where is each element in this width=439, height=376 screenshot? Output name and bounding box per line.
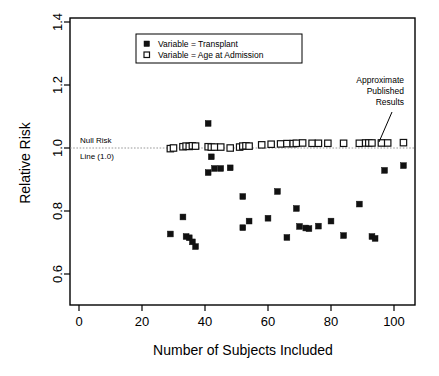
x-axis-ticks: [79, 305, 394, 311]
data-point: [170, 145, 176, 151]
data-point: [211, 144, 217, 150]
data-point: [193, 244, 199, 250]
data-point: [218, 144, 224, 150]
null-risk-label-line-2: Line (1.0): [80, 152, 114, 161]
data-point: [275, 189, 281, 195]
annotation-line-3: Results: [376, 97, 404, 107]
data-point: [315, 140, 321, 146]
data-point: [369, 140, 375, 146]
y-tick-label-1-0: 1.0: [50, 139, 65, 157]
y-tick-label-0-6: 0.6: [50, 265, 65, 283]
data-point: [259, 142, 265, 148]
data-point: [284, 140, 290, 146]
data-point: [167, 231, 173, 237]
x-tick-label-0: 0: [75, 314, 82, 329]
x-tick-label-100: 100: [383, 314, 405, 329]
data-point: [306, 226, 312, 232]
annotation-line-2: Published: [367, 86, 405, 96]
null-risk-label-line-1: Null Risk: [80, 136, 113, 145]
data-point: [227, 145, 233, 151]
data-point: [382, 167, 388, 173]
data-point: [246, 218, 252, 224]
legend-marker-transplant: [144, 41, 150, 47]
data-point: [284, 235, 290, 241]
legend-label-age-at-admission: Variable = Age at Admission: [158, 50, 264, 60]
data-point: [205, 170, 211, 176]
series-age-at-admission: [167, 139, 407, 151]
data-points-layer: [167, 121, 407, 250]
data-point: [192, 143, 198, 149]
data-point: [212, 166, 218, 172]
annotation-leader-line: [379, 112, 392, 142]
data-point: [356, 201, 362, 207]
data-point: [180, 214, 186, 220]
data-point: [316, 223, 322, 229]
data-point: [293, 140, 299, 146]
data-point: [400, 139, 406, 145]
data-point: [205, 121, 211, 127]
x-axis-tick-labels: 0 20 40 60 80 100: [75, 314, 404, 329]
y-tick-label-1-2: 1.2: [50, 76, 65, 94]
data-point: [265, 215, 271, 221]
data-point: [328, 218, 334, 224]
data-point: [240, 194, 246, 200]
legend-marker-age-at-admission: [144, 52, 150, 58]
data-point: [227, 165, 233, 171]
data-point: [293, 206, 299, 212]
y-tick-label-1-4: 1.4: [50, 13, 65, 31]
plot-canvas: 1.4 1.2 1.0 0.8 0.6 Relative Risk 0 20 4…: [0, 0, 439, 376]
approximate-published-results-annotation: Approximate Published Results: [356, 75, 404, 142]
data-point: [385, 140, 391, 146]
data-point: [356, 140, 362, 146]
legend-label-transplant: Variable = Transplant: [158, 39, 239, 49]
x-tick-label-20: 20: [135, 314, 149, 329]
data-point: [208, 154, 214, 160]
data-point: [268, 141, 274, 147]
annotation-line-1: Approximate: [356, 75, 404, 85]
y-axis-title: Relative Risk: [17, 121, 33, 204]
data-point: [240, 225, 246, 231]
data-point: [297, 224, 303, 230]
data-point: [309, 140, 315, 146]
data-point: [325, 140, 331, 146]
legend: Variable = Transplant Variable = Age at …: [136, 34, 302, 63]
y-axis-tick-labels: 1.4 1.2 1.0 0.8 0.6: [50, 13, 65, 283]
x-tick-label-40: 40: [198, 314, 212, 329]
data-point: [277, 141, 283, 147]
data-point: [299, 140, 305, 146]
x-axis-title: Number of Subjects Included: [153, 342, 333, 358]
data-point: [372, 236, 378, 242]
scatter-plot-figure: 1.4 1.2 1.0 0.8 0.6 Relative Risk 0 20 4…: [0, 0, 439, 376]
x-tick-label-80: 80: [324, 314, 338, 329]
data-point: [246, 143, 252, 149]
x-tick-label-60: 60: [261, 314, 275, 329]
data-point: [401, 163, 407, 169]
data-point: [218, 166, 224, 172]
y-tick-label-0-8: 0.8: [50, 202, 65, 220]
data-point: [340, 140, 346, 146]
data-point: [341, 233, 347, 239]
